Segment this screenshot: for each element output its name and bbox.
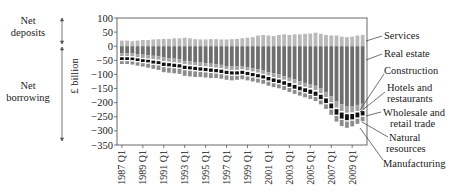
bar-segment: [136, 41, 140, 47]
bar-segment: [235, 67, 239, 70]
bar-segment: [162, 66, 166, 67]
y-tick-label: 50: [103, 27, 114, 38]
bar-segment: [256, 74, 260, 77]
legend-real-estate: Real estate: [384, 48, 430, 59]
bar-segment: [261, 46, 265, 70]
bar-segment: [298, 46, 302, 81]
bar-segment: [235, 39, 239, 46]
bar-segment: [193, 67, 197, 70]
bar-segment: [261, 35, 265, 46]
y-tick-label: −250: [91, 111, 113, 122]
bar-segment: [146, 46, 150, 55]
bar-segment: [324, 103, 328, 104]
bar-segment: [157, 56, 161, 59]
bar-segment: [183, 64, 187, 65]
bar-segment: [146, 63, 150, 64]
bar-segment: [240, 46, 244, 66]
bar-segment: [335, 109, 339, 115]
bar-segment: [251, 37, 255, 46]
bar-segment: [340, 113, 344, 119]
bar-segment: [219, 73, 223, 74]
bar-segment: [345, 120, 349, 121]
bar-segment: [335, 116, 339, 122]
y-tick-label: −200: [91, 97, 113, 108]
bar-segment: [204, 67, 208, 68]
bar-segment: [146, 64, 150, 68]
bar-segment: [225, 75, 229, 80]
y-tick-label: 100: [97, 13, 113, 24]
bar-segment: [282, 34, 286, 46]
bar-segment: [345, 106, 349, 113]
bar-segment: [329, 96, 333, 102]
bar-segment: [130, 61, 134, 64]
bar-segment: [225, 74, 229, 75]
bar-segment: [314, 96, 318, 97]
bar-segment: [230, 67, 234, 70]
bar-segment: [272, 36, 276, 46]
bar-segment: [183, 38, 187, 46]
bar-segment: [350, 37, 354, 47]
bar-segment: [340, 111, 344, 112]
bar-segment: [277, 78, 281, 79]
bar-segment: [314, 97, 318, 101]
bar-segment: [225, 71, 229, 74]
bar-segment: [324, 46, 328, 92]
bar-segment: [267, 35, 271, 46]
bar-segment: [261, 80, 265, 84]
bar-segment: [287, 88, 291, 92]
bar-segment: [188, 66, 192, 69]
bar-segment: [287, 35, 291, 46]
legend-hotels-line1: Hotels and: [387, 82, 433, 93]
bar-segment: [162, 58, 166, 62]
bar-segment: [324, 97, 328, 98]
bar-segment: [287, 82, 291, 83]
bar-segment: [188, 61, 192, 64]
bar-segment: [361, 111, 365, 116]
y-tick-label: −300: [91, 125, 113, 136]
bar-segment: [303, 88, 307, 92]
bar-segment: [345, 114, 349, 120]
bar-segment: [272, 78, 276, 82]
bar-segment: [267, 72, 271, 75]
bar-segment: [183, 69, 187, 70]
bar-segment: [350, 121, 354, 127]
bar-segment: [125, 56, 129, 57]
bar-segment: [277, 35, 281, 46]
bar-segment: [282, 76, 286, 80]
bar-segment: [356, 46, 360, 105]
bar-segment: [256, 79, 260, 83]
bar-segment: [214, 74, 218, 79]
bar-segment: [235, 70, 239, 71]
bar-segment: [298, 34, 302, 46]
bar-segment: [356, 35, 360, 46]
x-tick-label: 2009 Q1: [347, 150, 358, 185]
net-borrowing-label-line1: Net: [20, 80, 35, 91]
bar-segment: [324, 92, 328, 97]
range-brackets: [61, 18, 64, 141]
bar-segment: [219, 68, 223, 69]
bar-segment: [178, 63, 182, 64]
bar-segment: [350, 113, 354, 114]
bar-segment: [151, 39, 155, 46]
bar-segment: [361, 116, 365, 117]
bar-segment: [230, 75, 234, 76]
bar-segment: [230, 46, 234, 66]
bar-segment: [308, 90, 312, 94]
bar-segment: [136, 62, 140, 65]
bar-segment: [272, 46, 276, 73]
bar-segment: [230, 39, 234, 46]
bar-segment: [319, 34, 323, 46]
bar-segment: [130, 56, 134, 57]
bar-segment: [246, 75, 250, 76]
bar-segment: [151, 64, 155, 65]
bar-segment: [178, 69, 182, 74]
x-tick-label: 2007 Q1: [326, 150, 337, 185]
bar-segment: [162, 46, 166, 57]
bar-segment: [345, 122, 349, 128]
bar-segment: [308, 84, 312, 88]
bar-segment: [272, 77, 276, 78]
legend-manufacturing: Manufacturing: [383, 158, 446, 169]
bar-segment: [350, 106, 354, 112]
bar-segment: [193, 46, 197, 62]
bar-segment: [157, 39, 161, 46]
